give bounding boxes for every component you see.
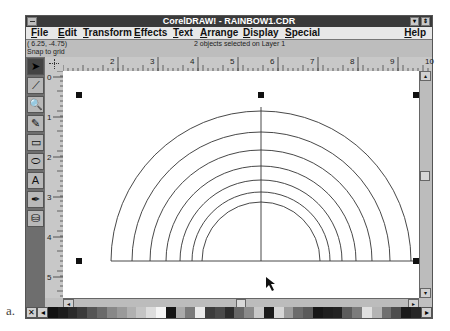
palette-scroll-left-button[interactable]: ◂ xyxy=(37,307,48,318)
minimize-button[interactable]: ▾ xyxy=(410,17,419,26)
color-swatch[interactable] xyxy=(362,307,372,318)
control-menu-box[interactable] xyxy=(27,17,37,26)
ruler-label: 0 xyxy=(47,73,51,82)
menu-file[interactable]: File xyxy=(31,27,48,39)
drawing-canvas[interactable] xyxy=(63,71,419,298)
status-bar: ( 6.25, -4.75) Snap to grid 2 objects se… xyxy=(26,40,432,58)
figure-label: a. xyxy=(6,303,15,319)
menu-bar: Help FileEditTransformEffectsTextArrange… xyxy=(26,27,432,40)
color-swatch[interactable] xyxy=(244,307,254,318)
ruler-label: 4 xyxy=(190,57,194,66)
pick-tool-icon[interactable]: ➤ xyxy=(27,58,44,75)
ruler-label: 1 xyxy=(47,113,51,122)
ruler-origin-crosshair[interactable] xyxy=(45,57,64,71)
color-swatch[interactable] xyxy=(391,307,401,318)
menu-effects[interactable]: Effects xyxy=(134,27,167,39)
coreldraw-window: CorelDRAW! - RAINBOW1.CDR ▾ ⇕ Help FileE… xyxy=(25,15,433,319)
color-swatch[interactable] xyxy=(313,307,323,318)
vertical-scroll-thumb[interactable] xyxy=(420,171,430,181)
horizontal-ruler[interactable]: 2345678910 xyxy=(63,57,432,72)
color-swatch[interactable] xyxy=(195,307,205,318)
palette-swatches xyxy=(48,307,421,318)
vertical-scrollbar[interactable]: ▴ ▾ xyxy=(419,71,432,298)
ruler-label: 2 xyxy=(47,153,51,162)
color-swatch[interactable] xyxy=(136,307,146,318)
menu-special[interactable]: Special xyxy=(285,27,320,39)
color-swatch[interactable] xyxy=(401,307,411,318)
vertical-ruler[interactable]: 012345 xyxy=(45,71,64,298)
color-swatch[interactable] xyxy=(185,307,195,318)
color-swatch[interactable] xyxy=(274,307,284,318)
color-swatch[interactable] xyxy=(264,307,274,318)
color-swatch[interactable] xyxy=(234,307,244,318)
color-swatch[interactable] xyxy=(411,307,421,318)
ruler-label: 3 xyxy=(47,193,51,202)
title-bar: CorelDRAW! - RAINBOW1.CDR ▾ ⇕ xyxy=(26,16,432,27)
color-swatch[interactable] xyxy=(333,307,343,318)
scroll-down-button[interactable]: ▾ xyxy=(420,288,431,298)
color-swatch[interactable] xyxy=(117,307,127,318)
color-swatch[interactable] xyxy=(205,307,215,318)
selection-handle xyxy=(258,92,264,98)
color-swatch[interactable] xyxy=(382,307,392,318)
rainbow-drawing[interactable] xyxy=(63,71,419,298)
color-swatch[interactable] xyxy=(293,307,303,318)
ruler-label: 4 xyxy=(47,233,51,242)
color-swatch[interactable] xyxy=(342,307,352,318)
color-swatch[interactable] xyxy=(323,307,333,318)
ruler-label: 3 xyxy=(150,57,154,66)
menu-text[interactable]: Text xyxy=(173,27,193,39)
zoom-tool-icon[interactable]: 🔍 xyxy=(27,96,44,113)
palette-scroll-right-button[interactable]: ▸ xyxy=(421,307,432,318)
pencil-tool-icon[interactable]: ✎ xyxy=(27,115,44,132)
menu-arrange[interactable]: Arrange xyxy=(200,27,238,39)
color-swatch[interactable] xyxy=(156,307,166,318)
color-swatch[interactable] xyxy=(68,307,78,318)
ruler-label: 5 xyxy=(230,57,234,66)
color-swatch[interactable] xyxy=(107,307,117,318)
scrollbar-corner xyxy=(419,298,432,307)
ruler-label: 2 xyxy=(110,57,114,66)
mouse-pointer-icon xyxy=(265,276,277,292)
snap-status: Snap to grid xyxy=(27,48,65,56)
color-swatch[interactable] xyxy=(58,307,68,318)
color-swatch[interactable] xyxy=(87,307,97,318)
color-swatch[interactable] xyxy=(372,307,382,318)
ruler-label: 8 xyxy=(350,57,354,66)
selection-handle xyxy=(76,258,82,264)
menu-display[interactable]: Display xyxy=(243,27,279,39)
color-swatch[interactable] xyxy=(176,307,186,318)
text-tool-icon[interactable]: A xyxy=(27,172,44,189)
window-title: CorelDRAW! - RAINBOW1.CDR xyxy=(163,16,296,26)
color-swatch[interactable] xyxy=(127,307,137,318)
ellipse-tool-icon[interactable]: ⬭ xyxy=(27,153,44,170)
color-palette: ✕ ◂ ▸ xyxy=(26,307,432,318)
fill-tool-icon[interactable]: ⛁ xyxy=(27,210,44,227)
scroll-up-button[interactable]: ▴ xyxy=(420,71,431,81)
shape-tool-icon[interactable]: ⟋ xyxy=(27,77,44,94)
menu-transform[interactable]: Transform xyxy=(83,27,132,39)
rectangle-tool-icon[interactable]: ▭ xyxy=(27,134,44,151)
maximize-button[interactable]: ⇕ xyxy=(421,17,430,26)
color-swatch[interactable] xyxy=(352,307,362,318)
color-swatch[interactable] xyxy=(146,307,156,318)
color-swatch[interactable] xyxy=(48,307,58,318)
menu-help[interactable]: Help xyxy=(404,27,426,39)
color-swatch[interactable] xyxy=(225,307,235,318)
no-fill-button[interactable]: ✕ xyxy=(26,307,37,318)
color-swatch[interactable] xyxy=(254,307,264,318)
outline-tool-icon[interactable]: ✒ xyxy=(27,191,44,208)
toolbox: ➤⟋🔍✎▭⬭A✒⛁ xyxy=(26,57,45,307)
color-swatch[interactable] xyxy=(215,307,225,318)
ruler-label: 6 xyxy=(270,57,274,66)
color-swatch[interactable] xyxy=(284,307,294,318)
color-swatch[interactable] xyxy=(77,307,87,318)
ruler-label: 7 xyxy=(310,57,314,66)
color-swatch[interactable] xyxy=(303,307,313,318)
color-swatch[interactable] xyxy=(97,307,107,318)
color-swatch[interactable] xyxy=(166,307,176,318)
ruler-label: 10 xyxy=(425,57,434,66)
selection-handle xyxy=(76,92,82,98)
menu-edit[interactable]: Edit xyxy=(58,27,77,39)
cursor-coordinates: ( 6.25, -4.75) xyxy=(27,40,67,48)
